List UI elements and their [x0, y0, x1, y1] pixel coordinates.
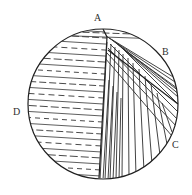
region-label-a: A: [94, 13, 101, 23]
region-label-c: C: [172, 140, 179, 150]
figure-container: A B C D: [0, 0, 192, 195]
region-label-d: D: [13, 107, 20, 117]
region-label-b: B: [162, 47, 169, 57]
hatched-circle-diagram: [0, 0, 192, 195]
